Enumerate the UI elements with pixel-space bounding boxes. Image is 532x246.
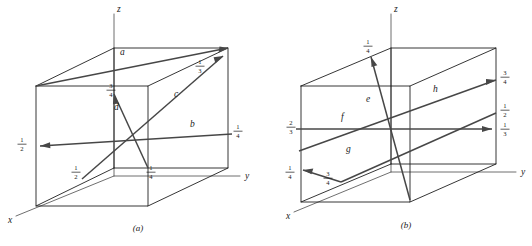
fraction-numerator: 3 [109, 82, 113, 89]
fraction-denominator: 4 [366, 47, 370, 54]
fraction-denominator: 2 [20, 145, 23, 152]
fraction-denominator: 4 [236, 132, 240, 139]
vector-f-label: f [341, 112, 345, 122]
cell-right-face [148, 48, 228, 206]
fraction-one-quarter-b-tail: 1 4 [234, 123, 243, 139]
fraction-denominator: 2 [503, 111, 506, 118]
panel-a-caption: (a) [133, 223, 144, 233]
vector-h-label: h [433, 84, 438, 94]
fraction-two-thirds-f-tail: 2 3 [287, 119, 296, 135]
cell-right-face [410, 48, 496, 202]
z-axis-label: z [116, 4, 121, 14]
vector-h-shaft [299, 80, 496, 151]
fraction-denominator: 3 [198, 67, 202, 74]
z-axis-label: z [393, 4, 398, 14]
x-axis-label: x [285, 211, 291, 221]
cell-top-face [301, 48, 496, 86]
fraction-numerator: 1 [366, 38, 369, 45]
fraction-denominator: 4 [288, 173, 292, 180]
fraction-three-quarters-g-tail: 3 4 [324, 170, 333, 186]
vector-g [303, 169, 341, 183]
panel-b: z y x e f g h 1 4 3 4 1 2 1 3 2 3 [266, 0, 532, 246]
fraction-numerator: 1 [20, 136, 23, 143]
vector-h [299, 79, 496, 151]
fraction-one-quarter-e-tip: 1 4 [364, 38, 373, 54]
vector-a-arrowhead [219, 47, 228, 53]
x-axis-label: x [7, 215, 13, 225]
vector-a-label: a [120, 47, 125, 57]
fraction-one-half-b-tip: 1 2 [18, 136, 27, 152]
fraction-denominator: 3 [503, 130, 507, 137]
vector-f [296, 126, 492, 132]
fraction-denominator: 4 [326, 179, 330, 186]
panel-b-caption: (b) [401, 220, 412, 230]
fraction-numerator: 3 [326, 170, 330, 177]
fraction-one-third-f-tip: 1 3 [501, 121, 510, 137]
fraction-numerator: 1 [198, 58, 201, 65]
fraction-numerator: 1 [503, 121, 506, 128]
fraction-one-half-ac-tail: 1 2 [72, 164, 81, 180]
axes-group-a [16, 14, 240, 216]
cell-hidden-bottom-left [301, 164, 391, 202]
fraction-three-quarters-h-tip: 3 4 [501, 69, 510, 85]
vector-g-arrowhead [303, 169, 313, 175]
vector-e-label: e [366, 94, 370, 104]
panel-a: z y x a c b d 1 3 3 4 1 4 1 2 1 [0, 0, 266, 246]
fraction-denominator: 2 [74, 173, 77, 180]
fraction-numerator: 1 [503, 102, 506, 109]
fraction-numerator: 3 [503, 69, 507, 76]
fraction-numerator: 1 [236, 123, 239, 130]
fraction-denominator: 3 [289, 128, 293, 135]
fraction-denominator: 4 [109, 91, 113, 98]
cell-back-face [36, 86, 148, 206]
vector-c-shaft [82, 56, 223, 179]
vector-d-shaft [114, 94, 148, 168]
vector-d-label: d [114, 102, 119, 112]
fraction-numerator: 1 [288, 164, 291, 171]
fraction-numerator: 1 [74, 164, 77, 171]
figure-container: z y x a c b d 1 3 3 4 1 4 1 2 1 [0, 0, 532, 246]
y-axis-label: y [520, 167, 526, 177]
vector-e-arrowhead [371, 57, 377, 67]
fraction-one-third-c-tip: 1 3 [196, 58, 205, 74]
vector-f-arrowhead [482, 126, 492, 132]
vector-b-label: b [190, 119, 195, 129]
vector-g-label: g [346, 144, 351, 154]
fraction-one-quarter-g-tip: 1 4 [286, 164, 295, 180]
x-axis-line [294, 172, 391, 212]
fraction-one-half-right: 1 2 [501, 102, 510, 118]
fraction-denominator: 4 [503, 78, 507, 85]
fraction-numerator: 2 [289, 119, 292, 126]
fraction-numerator: 1 [149, 164, 152, 171]
vector-c-label: c [174, 89, 179, 99]
vector-h-arrowhead [486, 79, 496, 85]
vector-c [82, 56, 223, 179]
x-axis-line [16, 176, 114, 216]
y-axis-label: y [244, 171, 250, 181]
vector-b-shaft [40, 134, 232, 146]
